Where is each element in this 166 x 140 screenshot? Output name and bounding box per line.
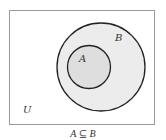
set-a-circle bbox=[68, 46, 111, 89]
set-b-label: B bbox=[114, 32, 122, 43]
caption: A ⊆ B bbox=[69, 128, 95, 139]
set-a-label: A bbox=[78, 53, 86, 64]
universe-label: U bbox=[23, 104, 32, 115]
venn-diagram: B A U A ⊆ B bbox=[0, 0, 166, 140]
